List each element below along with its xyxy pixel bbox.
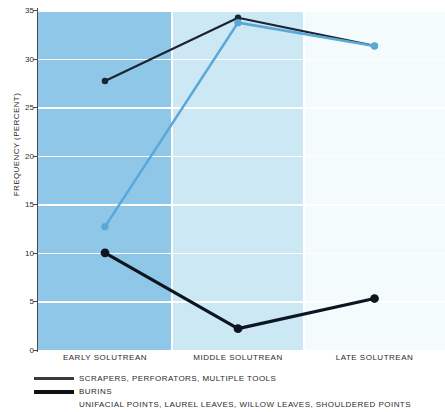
legend-swatch-icon [34,377,74,380]
y-tick-mark [33,350,38,351]
x-label-late-solutrean: LATE SOLUTREAN [336,353,414,362]
y-tick-label-15: 15 [14,200,34,209]
data-point [234,324,243,333]
legend-label: SCRAPERS, PERFORATORS, MULTIPLE TOOLS [79,374,276,383]
series-burins [101,248,379,333]
chart-legend: SCRAPERS, PERFORATORS, MULTIPLE TOOLSBUR… [0,372,445,411]
data-point [101,248,110,257]
y-tick-label-30: 30 [14,54,34,63]
x-label-middle-solutrean: MIDDLE SOLUTREAN [193,353,282,362]
x-axis-category-labels: EARLY SOLUTREANMIDDLE SOLUTREANLATE SOLU… [38,353,445,369]
y-tick-label-25: 25 [14,103,34,112]
series-lines [38,10,445,350]
series-unifacial-points [101,19,378,230]
series-line [105,18,375,81]
series-line [105,253,375,329]
series-line [105,23,375,227]
x-label-early-solutrean: EARLY SOLUTREAN [63,353,147,362]
y-tick-label-20: 20 [14,151,34,160]
solutrean-tool-frequency-chart: FREQUENCY (PERCENT) 05101520253035 EARLY… [0,0,445,412]
y-tick-label-0: 0 [14,346,34,355]
data-point [234,19,241,26]
y-tick-label-10: 10 [14,248,34,257]
legend-swatch-icon [34,390,74,394]
data-point [371,42,378,49]
legend-label: UNIFACIAL POINTS, LAUREL LEAVES, WILLOW … [79,400,411,409]
y-axis-tick-labels: 05101520253035 [14,0,34,360]
y-tick-label-35: 35 [14,6,34,15]
legend-item: BURINS [0,385,445,398]
data-point [102,78,108,84]
legend-item: SCRAPERS, PERFORATORS, MULTIPLE TOOLS [0,372,445,385]
data-point [370,294,379,303]
legend-label: BURINS [79,387,112,396]
plot-area [38,10,445,350]
legend-item: UNIFACIAL POINTS, LAUREL LEAVES, WILLOW … [0,398,445,411]
data-point [101,223,108,230]
legend-swatch-icon [34,403,74,406]
y-tick-label-5: 5 [14,297,34,306]
